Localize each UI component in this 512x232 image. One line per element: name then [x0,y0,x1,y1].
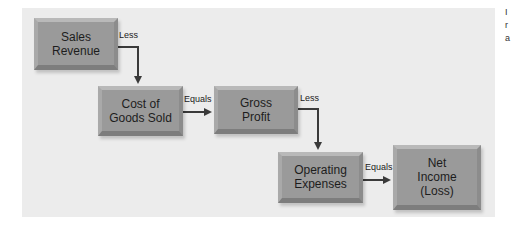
node-cost-of-goods-sold: Cost of Goods Sold [98,86,183,136]
cropped-side-text: I r a [505,6,512,45]
node-label-line: Sales [52,30,100,44]
cropped-char: r [505,19,512,32]
arrow-sales-to-cogs [118,47,138,82]
edge-label-equals-1: Equals [184,94,212,104]
node-gross-profit: Gross Profit [214,86,298,134]
node-label-line: Gross [240,96,272,110]
edge-label-equals-2: Equals [365,162,393,172]
node-operating-expenses: Operating Expenses [278,152,363,203]
cropped-char: a [505,32,512,45]
node-label-line: Revenue [52,44,100,58]
edge-label-less-2: Less [300,93,319,103]
node-sales-revenue: Sales Revenue [34,18,118,70]
node-label-line: Income [417,170,456,184]
node-label-line: Goods Sold [109,111,172,125]
node-net-income: Net Income (Loss) [393,145,481,210]
node-label-line: Profit [240,110,272,124]
edge-label-less-1: Less [119,30,138,40]
node-label-line: Operating [294,163,347,177]
node-label-line: Expenses [294,177,347,191]
node-label-line: (Loss) [417,184,456,198]
cropped-char: I [505,6,512,19]
node-label-line: Cost of [109,97,172,111]
arrow-gross-to-opex [298,109,318,148]
node-label-line: Net [417,156,456,170]
